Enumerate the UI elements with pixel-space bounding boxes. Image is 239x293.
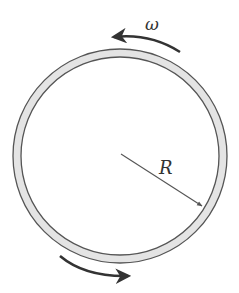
- diagram-svg: ω R: [0, 0, 239, 293]
- radius-label: R: [158, 157, 173, 178]
- omega-label: ω: [145, 14, 159, 34]
- ring: [13, 49, 227, 263]
- rotating-ring-diagram: ω R: [0, 0, 239, 293]
